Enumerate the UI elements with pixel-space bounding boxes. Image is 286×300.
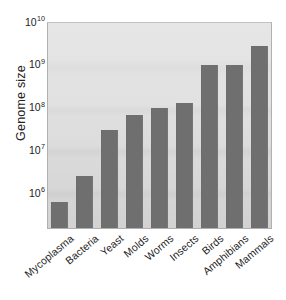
y-tick-label: 108	[3, 102, 45, 113]
y-tick-exponent: 6	[41, 185, 45, 194]
y-tick-mantissa: 10	[25, 16, 37, 28]
bar	[151, 108, 169, 230]
bar	[126, 115, 144, 229]
y-tick-exponent: 9	[41, 57, 45, 66]
x-tick-label: Bacteria	[62, 232, 100, 266]
y-tick-label: 107	[3, 145, 45, 156]
y-tick-label: 109	[3, 59, 45, 70]
y-tick-mantissa: 10	[29, 187, 41, 199]
y-tick-mantissa: 10	[29, 58, 41, 70]
x-tick-label: Insects	[166, 232, 200, 263]
bar	[51, 202, 69, 229]
x-tick-label: Birds	[199, 232, 225, 257]
x-tick-label: Molds	[121, 232, 151, 260]
y-tick-exponent: 8	[41, 100, 45, 109]
x-tick-label: Amphibians	[200, 232, 251, 277]
x-tick-label: Mammals	[232, 232, 275, 271]
bar	[226, 65, 244, 229]
y-tick-label: 106	[3, 188, 45, 199]
y-axis-tick-labels: 1010109108107106	[0, 0, 45, 300]
x-tick-label: Worms	[142, 232, 175, 263]
y-tick-exponent: 10	[37, 14, 45, 23]
y-tick-label: 1010	[3, 17, 45, 28]
bar	[201, 65, 219, 229]
plot-area	[47, 22, 272, 229]
y-tick-mantissa: 10	[29, 144, 41, 156]
bar	[176, 103, 194, 229]
y-tick-mantissa: 10	[29, 101, 41, 113]
x-tick-label: Yeast	[97, 232, 125, 258]
bar	[101, 130, 119, 229]
genome-size-bar-chart: Genome size 1010109108107106 MycoplasmaB…	[0, 0, 286, 300]
bar	[76, 176, 94, 229]
bar-series	[47, 22, 272, 229]
y-tick-exponent: 7	[41, 142, 45, 151]
bar	[251, 46, 269, 229]
